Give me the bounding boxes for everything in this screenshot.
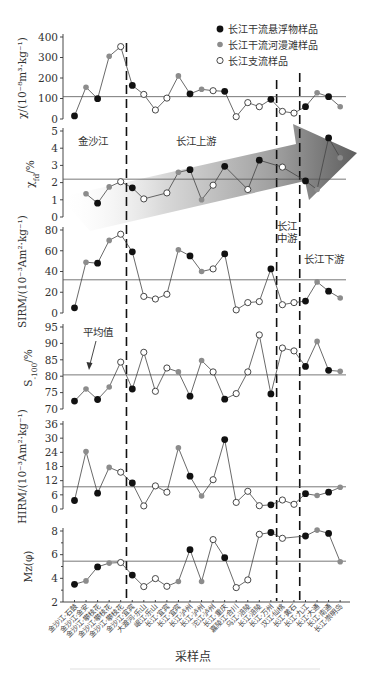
data-point-tributary <box>118 179 124 185</box>
data-point-floodplain <box>337 104 343 110</box>
data-point-suspended <box>71 304 78 311</box>
data-point-suspended <box>94 200 101 207</box>
data-point-suspended <box>221 88 228 95</box>
data-point-floodplain <box>83 84 89 90</box>
data-point-suspended <box>302 363 309 370</box>
y-tick-label: 30 <box>45 432 58 444</box>
data-point-tributary <box>164 291 170 297</box>
data-point-tributary <box>210 88 216 94</box>
y-tick-label: 200 <box>38 72 58 84</box>
y-axis-label: S-100/% <box>22 349 39 387</box>
data-point-suspended <box>302 103 309 110</box>
section-label-middle-line2: 中游 <box>277 232 298 244</box>
data-point-suspended <box>94 396 101 403</box>
y-tick-label: 85 <box>45 354 58 366</box>
y-axis-label-part: /% <box>22 349 34 363</box>
data-point-floodplain <box>176 247 182 253</box>
data-point-floodplain <box>199 358 205 364</box>
data-point-tributary <box>152 483 158 489</box>
data-point-floodplain <box>199 493 205 499</box>
data-point-suspended <box>129 248 136 255</box>
data-point-suspended <box>187 546 194 553</box>
data-point-tributary <box>164 365 170 371</box>
data-point-suspended <box>268 96 275 103</box>
y-tick-label: 18 <box>45 460 58 472</box>
data-point-tributary <box>210 477 216 483</box>
data-point-tributary <box>164 95 170 101</box>
data-point-tributary <box>279 497 285 503</box>
y-tick-label: 70 <box>45 403 58 415</box>
legend-label-floodplain: 长江干流河漫滩样品 <box>228 39 318 51</box>
data-point-tributary <box>245 186 251 192</box>
data-point-tributary <box>279 302 285 308</box>
data-point-suspended <box>187 166 194 173</box>
y-tick-label: 2 <box>51 596 58 608</box>
panel-s-100: 707580859095S-100/% <box>22 321 346 415</box>
y-tick-label: 100 <box>38 92 58 104</box>
legend-marker-suspended-icon <box>217 26 224 33</box>
data-point-suspended <box>187 473 194 480</box>
data-point-floodplain <box>83 386 89 392</box>
y-axis-label-part: χ/(10⁻⁸m³·kg⁻¹) <box>16 37 28 119</box>
mean-annotation: 平均值 <box>83 326 114 338</box>
data-point-suspended <box>129 184 136 191</box>
y-tick-label: 40 <box>45 265 58 277</box>
y-tick-label: 6 <box>51 548 58 560</box>
data-point-suspended <box>94 95 101 102</box>
data-point-tributary <box>233 391 239 397</box>
legend-label-tributary: 长江支流样品 <box>228 55 288 67</box>
data-point-tributary <box>141 91 147 97</box>
data-point-suspended <box>325 135 332 142</box>
data-point-tributary <box>164 489 170 495</box>
y-axis-label-part: HIRM/(10⁻³Am²·kg⁻¹) <box>16 409 28 524</box>
legend: 长江干流悬浮物样品 长江干流河漫滩样品 长江支流样品 <box>217 23 318 67</box>
section-label-jinsha: 金沙江 <box>78 135 109 147</box>
y-axis-label: χfd/% <box>24 160 41 187</box>
data-point-tributary <box>210 369 216 375</box>
data-point-suspended <box>302 490 309 497</box>
data-point-floodplain <box>337 485 343 491</box>
y-axis-label: HIRM/(10⁻³Am²·kg⁻¹) <box>16 409 28 524</box>
data-point-suspended <box>94 564 101 571</box>
panel-mz: 2468Mz(φ) <box>22 525 346 608</box>
data-point-floodplain <box>199 579 205 585</box>
y-axis-label-part: /% <box>24 160 36 174</box>
data-point-tributary <box>152 107 158 113</box>
data-point-suspended <box>71 497 78 504</box>
panel-hirm: 061218243036HIRM/(10⁻³Am²·kg⁻¹) <box>16 409 346 524</box>
y-tick-label: 5 <box>51 125 58 137</box>
data-point-floodplain <box>337 369 343 375</box>
data-point-tributary <box>256 503 262 509</box>
data-point-tributary <box>256 104 262 110</box>
data-point-suspended <box>302 533 309 540</box>
data-point-tributary <box>245 369 251 375</box>
y-tick-label: 75 <box>45 386 58 398</box>
y-tick-label: 60 <box>45 245 58 257</box>
y-tick-label: 2 <box>51 176 58 188</box>
data-point-tributary <box>141 503 147 509</box>
data-point-tributary <box>118 359 124 365</box>
data-point-suspended <box>129 572 136 579</box>
legend-marker-floodplain-icon <box>217 42 223 48</box>
x-axis-title: 采样点 <box>175 649 211 664</box>
y-tick-label: 1 <box>51 194 58 206</box>
y-tick-label: 300 <box>38 51 58 63</box>
data-point-suspended <box>221 554 228 561</box>
data-point-tributary <box>118 469 124 475</box>
data-point-floodplain <box>199 87 205 93</box>
mean-arrow-icon <box>87 341 97 370</box>
data-point-tributary <box>245 488 251 494</box>
y-tick-label: 24 <box>45 446 59 458</box>
y-tick-label: 0 <box>51 113 58 125</box>
data-point-suspended <box>302 178 309 185</box>
data-point-suspended <box>325 93 332 100</box>
y-tick-label: 3 <box>51 159 58 171</box>
data-point-floodplain <box>106 465 112 471</box>
data-point-tributary <box>164 190 170 196</box>
y-tick-label: 90 <box>45 337 58 349</box>
data-point-suspended <box>129 480 136 487</box>
data-point-suspended <box>325 489 332 496</box>
data-point-floodplain <box>314 187 320 193</box>
data-point-suspended <box>129 386 136 393</box>
y-tick-label: 8 <box>51 525 58 537</box>
